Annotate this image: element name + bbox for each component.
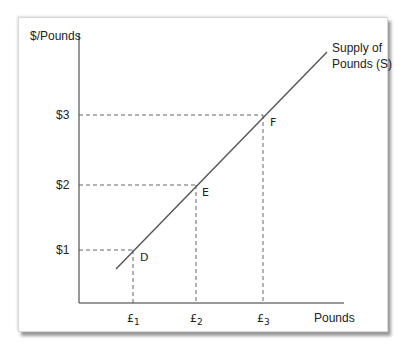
supply-curve (116, 52, 327, 269)
y-tick-2: $2 (56, 178, 70, 192)
guide-lines (79, 115, 263, 303)
point-d-label: D (140, 251, 148, 264)
point-e-label: E (202, 186, 209, 199)
curve-label-line2: Pounds (S) (332, 57, 392, 71)
point-f-label: F (270, 116, 276, 129)
curve-label-line1: Supply of (332, 41, 383, 55)
y-tick-3: $3 (56, 108, 70, 122)
x-tick-1: £1 (127, 312, 140, 327)
x-axis-title: Pounds (314, 311, 355, 325)
x-tick-3: £3 (257, 312, 270, 327)
supply-chart: $/Pounds Pounds $3 $2 $1 £1 £2 £3 D E F … (0, 0, 413, 354)
y-axis-title: $/Pounds (30, 29, 81, 43)
y-tick-1: $1 (56, 243, 70, 257)
x-tick-2: £2 (190, 312, 203, 327)
